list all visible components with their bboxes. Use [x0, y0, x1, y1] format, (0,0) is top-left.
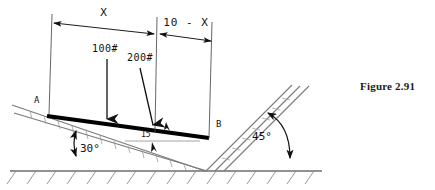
left-incline-outer-edge: [12, 105, 205, 171]
dimension-arrow-10-minus-x: [160, 34, 211, 41]
point-label-b: B: [216, 119, 221, 129]
beam-member: [47, 116, 209, 138]
cursor-arrow-lower-icon: [151, 142, 157, 152]
point-label-a: A: [34, 95, 40, 105]
dimension-arrow-x: [54, 23, 154, 34]
statics-diagram: X 10 - X 100# 200# A B 15 30°: [0, 0, 435, 190]
dimension-left-span: X: [54, 6, 154, 34]
load-200-arrow: [140, 68, 153, 125]
left-incline-30deg: [12, 105, 207, 171]
ext-line-a: [49, 14, 52, 114]
angle-45-label: 45°: [252, 130, 272, 143]
dimension-label-x: X: [100, 6, 108, 19]
beam-mark-label: 15: [141, 130, 151, 139]
angle-30-arc: [74, 131, 76, 156]
load-200-group: 200#: [127, 52, 153, 125]
ext-line-b: [209, 22, 212, 138]
right-incline-mid-edge: [215, 86, 300, 171]
left-incline-hatching: [30, 111, 186, 170]
cursor-arrow-upper-icon: [164, 122, 170, 131]
ext-line-mid: [155, 17, 157, 132]
cursor-marks: [151, 122, 170, 152]
left-incline-inner-edge: [14, 113, 207, 171]
right-incline-hatching: [222, 98, 290, 160]
figure-caption: Figure 2.91: [360, 80, 415, 92]
figure-2-91: X 10 - X 100# 200# A B 15 30°: [0, 0, 435, 190]
dimension-label-10-minus-x: 10 - X: [163, 16, 209, 29]
ground-hatching: [7, 171, 314, 184]
load-100-group: 100#: [92, 43, 118, 119]
dimension-right-span: 10 - X: [160, 16, 211, 41]
load-200-label: 200#: [127, 52, 153, 63]
ground-line-group: [7, 171, 322, 184]
right-incline-45deg: [206, 85, 309, 171]
angle-30-label: 30°: [80, 142, 100, 155]
load-100-label: 100#: [92, 43, 118, 54]
beam-ab: [47, 116, 209, 138]
right-incline-upper-edge: [224, 86, 309, 171]
